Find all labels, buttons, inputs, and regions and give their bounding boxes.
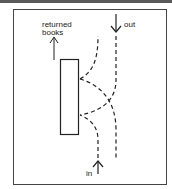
out-label: out — [124, 20, 136, 29]
in-up-arrow-icon — [93, 161, 103, 174]
flow-paths — [80, 36, 116, 158]
books-label: books — [42, 28, 63, 37]
path-desk-to-out-bottom — [80, 79, 116, 158]
diagram-frame — [14, 10, 167, 185]
flow-diagram: returned books out in — [0, 0, 172, 189]
path-desk-to-top-left — [80, 36, 98, 79]
desk-rectangle — [61, 60, 79, 135]
out-down-arrow-icon — [111, 14, 121, 32]
path-in-to-desk — [80, 115, 98, 158]
returned-books-up-arrow-icon — [50, 37, 58, 60]
in-label: in — [86, 169, 92, 178]
